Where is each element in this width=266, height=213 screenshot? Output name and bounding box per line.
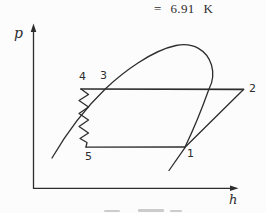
state-point-1-label: 1: [187, 148, 194, 159]
state-point-2-label: 2: [249, 83, 256, 94]
state-point-5-label: 5: [85, 151, 92, 162]
figure-page: = 6.91 K p h 4 3 2 1 5: [0, 0, 266, 213]
saturation-dome-curve: [52, 45, 213, 158]
caption-mark: [138, 209, 164, 212]
compression-line: [169, 90, 244, 171]
caption-mark: [170, 210, 182, 212]
ph-diagram: [0, 0, 266, 213]
y-axis-arrow-icon: [31, 24, 37, 33]
expansion-zigzag-line: [79, 89, 89, 147]
equation-text: = 6.91 K: [154, 2, 213, 15]
cropped-caption-fragment: [100, 208, 190, 213]
x-axis-label: h: [229, 193, 237, 206]
y-axis-label: p: [14, 26, 23, 40]
caption-mark: [104, 210, 120, 212]
state-point-4-label: 4: [79, 71, 86, 82]
state-point-3-label: 3: [100, 70, 107, 81]
x-axis-arrow-icon: [230, 186, 239, 191]
